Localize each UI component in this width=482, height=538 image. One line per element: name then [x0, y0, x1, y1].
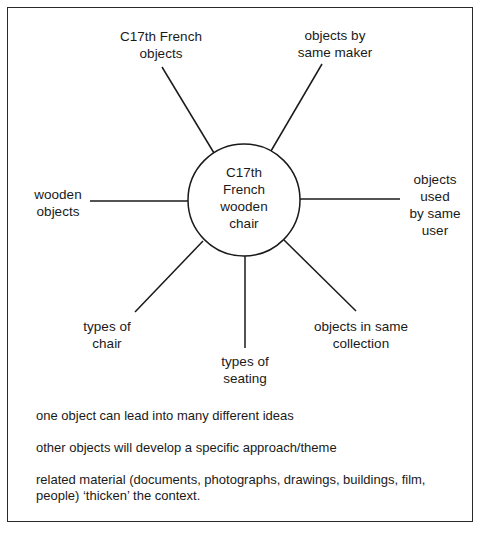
edge-types-of-chair: [135, 241, 203, 312]
node-objects-used-by-same-user: objects used by same user: [400, 171, 470, 239]
node-line: used: [400, 188, 470, 205]
notes-section: one object can lead into many different …: [36, 408, 466, 520]
center-node-label: C17th French wooden chair: [194, 164, 294, 232]
node-line: objects: [28, 203, 88, 220]
node-line: collection: [296, 335, 426, 352]
edge-objects-in-same-collection: [284, 240, 356, 311]
node-line: chair: [72, 335, 142, 352]
node-line: types of: [210, 353, 280, 370]
center-line-3: wooden: [194, 198, 294, 215]
center-line-1: C17th: [194, 164, 294, 181]
node-line: objects by: [275, 27, 395, 44]
center-line-2: French: [194, 181, 294, 198]
node-line: user: [400, 222, 470, 239]
node-c17th-french-objects: C17th French objects: [101, 28, 221, 62]
node-line: objects in same: [296, 318, 426, 335]
note-1: one object can lead into many different …: [36, 408, 466, 424]
node-objects-in-same-collection: objects in same collection: [296, 318, 426, 352]
edge-c17th-french-objects: [162, 67, 214, 153]
node-types-of-seating: types of seating: [210, 353, 280, 387]
edge-objects-by-same-maker: [271, 64, 322, 151]
node-line: types of: [72, 318, 142, 335]
node-objects-by-same-maker: objects by same maker: [275, 27, 395, 61]
node-types-of-chair: types of chair: [72, 318, 142, 352]
node-line: wooden: [28, 186, 88, 203]
node-line: C17th French: [101, 28, 221, 45]
node-line: by same: [400, 205, 470, 222]
node-line: same maker: [275, 44, 395, 61]
center-line-4: chair: [194, 215, 294, 232]
node-line: seating: [210, 370, 280, 387]
note-2: other objects will develop a specific ap…: [36, 440, 466, 456]
node-line: objects: [400, 171, 470, 188]
note-3: related material (documents, photographs…: [36, 472, 466, 504]
node-line: objects: [101, 45, 221, 62]
node-wooden-objects: wooden objects: [28, 186, 88, 220]
